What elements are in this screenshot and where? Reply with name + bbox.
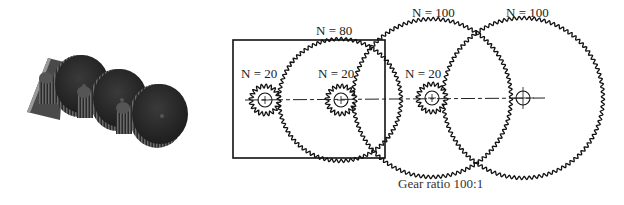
- gear-label-gear-100-a: N = 100: [412, 5, 455, 20]
- gear-label-pinion-3: N = 20: [405, 66, 441, 81]
- gear-train-figure: N = 20N = 80N = 20N = 100N = 20N = 100 G…: [0, 0, 624, 205]
- gear-label-gear-80: N = 80: [316, 23, 352, 38]
- gear-pinion-2: [325, 84, 357, 116]
- gear-train-photo: [27, 55, 188, 148]
- gear-label-pinion-2: N = 20: [318, 66, 354, 81]
- gear-ratio-caption: Gear ratio 100:1: [398, 176, 483, 191]
- hub-3d: [116, 102, 130, 114]
- gear-label-pinion-1: N = 20: [241, 66, 277, 81]
- gears-group: [249, 16, 605, 179]
- hub-3d: [77, 86, 91, 98]
- gear-face-3d: [132, 84, 188, 144]
- axle-dot: [160, 114, 164, 118]
- hub-3d: [39, 72, 53, 84]
- gear-train-schematic: N = 20N = 80N = 20N = 100N = 20N = 100 G…: [233, 5, 605, 191]
- gear-label-gear-100-b: N = 100: [506, 5, 549, 20]
- axle-dot: [120, 98, 124, 102]
- shaft-centerline: [245, 98, 545, 100]
